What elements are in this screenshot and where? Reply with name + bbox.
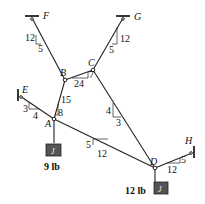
diagram-canvas: J J F G E H B C A D 12 5 12 5 7 24 15 8 …	[0, 0, 205, 204]
slope-AB-run: 8	[58, 107, 63, 118]
slope-EA-run: 4	[33, 110, 38, 121]
slope-triangle-CD	[113, 103, 121, 117]
load-D-label: 12 lb	[125, 185, 146, 196]
slope-CD-run: 3	[116, 117, 121, 128]
slope-AD-run: 12	[97, 148, 107, 159]
joint-B	[63, 78, 67, 82]
slope-BC-run: 24	[74, 78, 84, 89]
slope-EA-rise: 3	[23, 103, 28, 114]
label-C: C	[88, 57, 95, 68]
slope-GC-rise: 12	[120, 33, 130, 44]
svg-text:J: J	[158, 185, 162, 194]
slope-CD-rise: 4	[106, 105, 111, 116]
anchor-H	[190, 152, 193, 155]
anchor-E	[20, 96, 23, 99]
slope-DH-rise: 5	[181, 154, 186, 165]
slope-AD-rise: 5	[86, 139, 91, 150]
slope-DH-run: 12	[167, 164, 177, 175]
label-B: B	[60, 67, 66, 78]
cable-GC	[93, 18, 123, 70]
slope-FB-run: 5	[38, 43, 43, 54]
anchor-F	[31, 18, 34, 21]
cable-diagram: J J F G E H B C A D 12 5 12 5 7 24 15 8 …	[0, 0, 205, 204]
label-D: D	[149, 156, 158, 167]
svg-text:J: J	[51, 147, 55, 156]
label-A: A	[44, 118, 52, 129]
slope-GC-run: 5	[109, 44, 114, 55]
label-H: H	[184, 135, 193, 146]
slope-AB-rise: 15	[61, 94, 71, 105]
anchor-G	[122, 18, 125, 21]
label-G: G	[134, 11, 141, 22]
slope-BC-rise: 7	[89, 69, 94, 80]
label-F: F	[42, 10, 50, 21]
label-E: E	[21, 84, 28, 95]
joint-A	[52, 117, 56, 121]
load-A-label: 9 lb	[44, 161, 60, 172]
slope-FB-rise: 12	[25, 32, 35, 43]
